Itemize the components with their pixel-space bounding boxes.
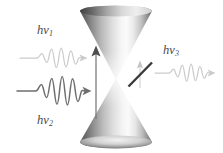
valence-band-cone	[80, 79, 152, 149]
allowed-transition-arrow	[91, 46, 100, 120]
photon-label-hv2-subscript: 2	[49, 119, 53, 128]
dirac-cone-figure: hν1 hν2 hν3	[0, 0, 223, 153]
photon-label-hv3-nu: ν	[169, 43, 175, 57]
valence-cone-apex-fade	[80, 79, 152, 149]
conduction-cone-apex-fade	[80, 6, 152, 80]
conduction-band-cone	[80, 6, 152, 80]
figure-canvas	[0, 0, 223, 153]
photon-label-hv2-nu: ν	[43, 113, 49, 127]
outgoing-photon-wave-right	[155, 64, 216, 81]
forbidden-transition-arrow	[129, 61, 153, 89]
photon-label-hv1: hν1	[37, 21, 53, 38]
incoming-photon-wave-upper	[20, 48, 88, 67]
wave-right-path	[155, 64, 210, 81]
photon-label-hv3: hν3	[163, 41, 179, 58]
wave-upper-path	[20, 48, 82, 67]
photon-label-hv2: hν2	[37, 111, 53, 128]
photon-label-hv3-subscript: 3	[175, 49, 179, 58]
incoming-photon-wave-lower	[17, 77, 92, 105]
photon-label-hv1-subscript: 1	[49, 29, 53, 38]
wave-lower-path	[17, 77, 85, 105]
photon-label-hv1-nu: ν	[43, 23, 49, 37]
